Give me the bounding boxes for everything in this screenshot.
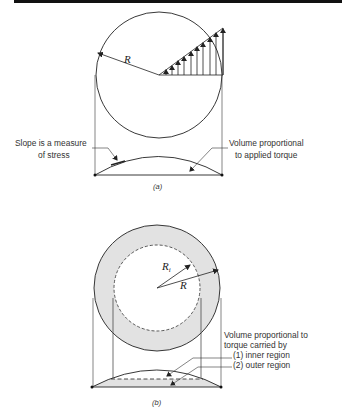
figure-b [91, 225, 233, 389]
radius-label-a: R [123, 53, 131, 65]
volume-annotation-b-line4: (2) outer region [233, 360, 291, 370]
slope-annotation-line1: Slope is a measure [15, 138, 87, 148]
membrane-inner-region-fill [113, 368, 201, 380]
outer-radius-label: R [179, 279, 187, 291]
support-point-left-b [91, 386, 94, 389]
slope-leader [92, 148, 117, 160]
volume-annotation-line2: to applied torque [235, 150, 298, 160]
caption-b: (b) [152, 398, 162, 407]
caption-a: (a) [153, 182, 163, 191]
torsion-diagram: R Slope is a measure of stress Volume pr… [0, 0, 342, 415]
volume-annotation-b-line1: Volume proportional to [224, 330, 308, 340]
slope-annotation-line2: of stress [38, 150, 70, 160]
support-point-left [94, 174, 97, 177]
volume-annotation-b-line3: (1) inner region [233, 350, 290, 360]
volume-annotation-line1: Volume proportional [229, 138, 304, 148]
volume-annotation-b-line2: torque carried by [224, 340, 288, 350]
support-point-right [221, 174, 224, 177]
support-point-right-b [220, 386, 223, 389]
top-bar [14, 0, 342, 3]
figure-a [92, 12, 228, 177]
membrane-profile [95, 157, 222, 176]
stress-distribution [159, 28, 223, 75]
